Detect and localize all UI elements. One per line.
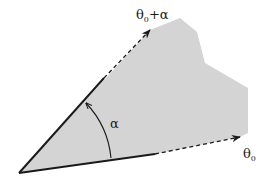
lower-ray-label-sub: 0: [251, 154, 256, 163]
angular-sector-diagram: [0, 0, 272, 187]
upper-ray-label-suffix: +α: [149, 7, 169, 22]
angle-label-text: α: [110, 116, 119, 131]
upper-ray-label-base: θ: [136, 7, 144, 22]
lower-ray-label: θ0: [243, 147, 256, 163]
shaded-region: [19, 18, 248, 173]
upper-ray-label: θ0+α: [136, 8, 169, 24]
angle-label: α: [110, 117, 119, 130]
lower-ray-label-base: θ: [243, 146, 251, 161]
